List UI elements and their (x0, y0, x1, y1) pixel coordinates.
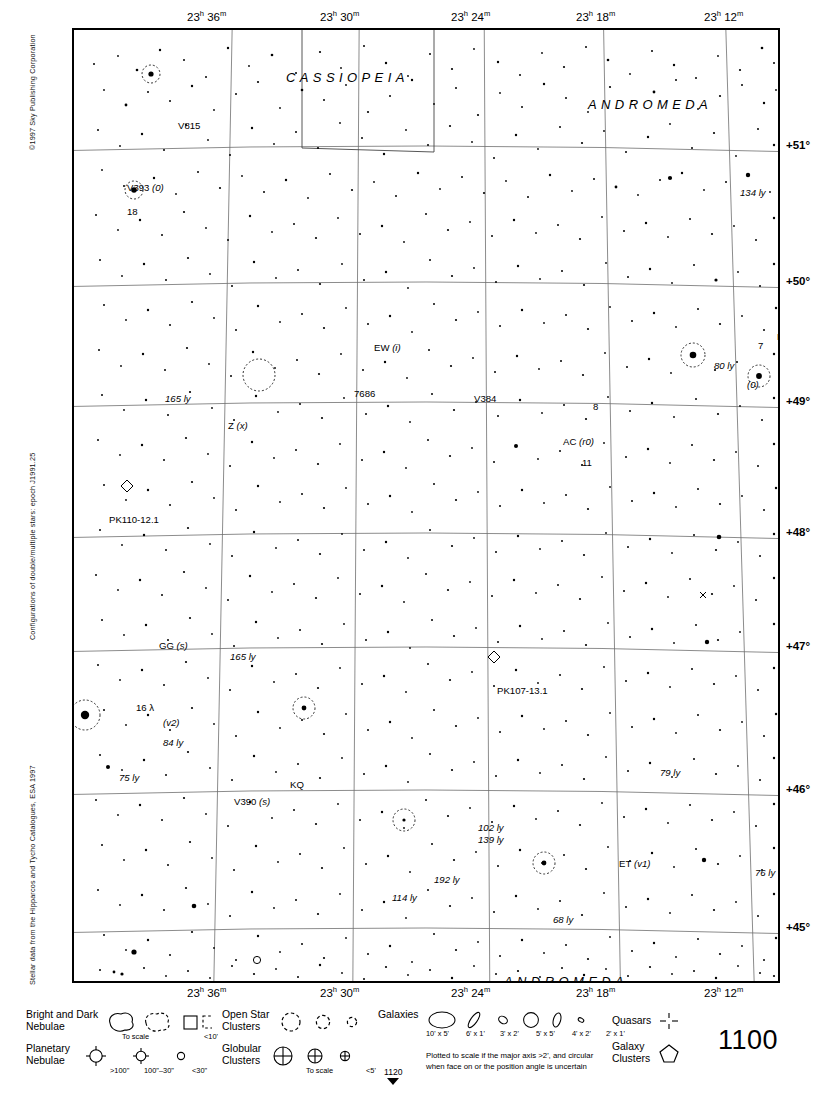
planetary-large-caption: >100" (110, 1066, 129, 1075)
star-label-30: 84 ly (163, 737, 183, 748)
star-label-18: 11 (582, 457, 592, 468)
legend-globular-clusters: Globular Clusters To scale <5' (222, 1043, 361, 1079)
star-label-10: (0) (747, 379, 759, 390)
open-clusters-label-2: Clusters (222, 1021, 269, 1033)
open-cluster-symbols (277, 1009, 369, 1035)
planetary-nebula-symbols (82, 1043, 197, 1069)
planetary-mid-caption: 100"–30" (144, 1066, 174, 1075)
legend-open-clusters: Open Star Clusters (222, 1009, 369, 1035)
star-label-34: V390 (s) (234, 796, 270, 807)
chart-legend: Bright and Dark Nebulae To scale <10' Pl… (0, 995, 814, 1093)
globular-small-caption: <5' (366, 1066, 376, 1075)
star-label-36: 139 ly (478, 834, 504, 845)
nebula-symbols (104, 1009, 212, 1035)
globular-clusters-label-1: Globular (222, 1043, 261, 1055)
ra-gridline-0 (214, 30, 232, 981)
globular-clusters-label-2: Clusters (222, 1055, 261, 1067)
star-label-28: 16 λ (136, 702, 154, 713)
sheet-number: 1100 (718, 1025, 778, 1056)
bright-dark-nebulae-label-2: Nebulae (26, 1021, 98, 1033)
star-label-35: 102 ly (478, 822, 504, 833)
bright-dark-nebulae-label-1: Bright and Dark (26, 1009, 98, 1021)
dec-tick-2: +49° (786, 395, 810, 407)
star-label-39: 192 ly (434, 874, 460, 885)
star-points (81, 45, 777, 980)
dec-gridline-3 (74, 533, 778, 539)
galaxy-size-0: 10' x 5' (426, 1029, 449, 1038)
star-label-38: 76 ly (755, 867, 775, 878)
star-label-33: KQ (290, 779, 304, 790)
star-label-41: 68 ly (553, 914, 573, 925)
star-chart: V815V393 (0)18134 lyEW (i)KY (v)7580 ly1… (72, 28, 780, 983)
galaxy-clusters-label-1: Galaxy (612, 1041, 650, 1053)
galaxy-cluster-symbol (656, 1041, 682, 1067)
planetary-small-caption: <30" (192, 1066, 207, 1075)
ra-tick-top-1: 23h 30m (320, 9, 359, 23)
galaxy-clusters-label-2: Clusters (612, 1053, 650, 1065)
star-label-3: 134 ly (740, 187, 766, 198)
sky-field: V815V393 (0)18134 lyEW (i)KY (v)7580 ly1… (74, 30, 778, 981)
star-label-11: 7686 (354, 388, 375, 399)
quasar-symbol (657, 1011, 681, 1031)
star-label-2: 18 (127, 206, 138, 217)
planetary-nebulae-label-2: Nebulae (26, 1055, 70, 1067)
adjacent-chart-pointer[interactable]: 1120 (384, 1067, 402, 1086)
quasars-label: Quasars (612, 1015, 651, 1027)
star-label-26: 165 ly (230, 651, 256, 662)
star-label-0: V815 (178, 120, 200, 131)
dec-tick-4: +47° (786, 640, 810, 652)
dec-tick-6: +45° (786, 921, 810, 933)
ra-tick-top-4: 23h 12m (704, 9, 743, 23)
legend-planetary-nebulae: Planetary Nebulae >100" (26, 1043, 197, 1079)
star-label-5: KY (v) (777, 331, 778, 342)
star-label-31: 79 ly (660, 767, 680, 778)
dec-gridline-5 (74, 790, 778, 796)
ra-gridline-4 (726, 30, 754, 981)
dec-tick-0: +51° (786, 139, 810, 151)
star-label-13: V384 (474, 393, 496, 404)
stellar-data-credit: Stellar data from the Hipparcos and Tych… (28, 765, 37, 985)
dec-gridline-0 (74, 146, 778, 152)
star-label-25: GG (s) (159, 640, 188, 651)
constellation-name-0: CASSIOPEIA (286, 70, 409, 85)
dec-gridline-6 (74, 928, 778, 934)
star-label-4: EW (i) (374, 342, 401, 353)
galaxy-size-2: 3' x 2' (500, 1029, 519, 1038)
star-label-14: 8 (593, 401, 598, 412)
dec-tick-5: +46° (786, 783, 810, 795)
legend-quasars: Quasars (612, 1011, 681, 1031)
star-label-27: PK107-13.1 (497, 685, 548, 696)
ra-tick-top-0: 23h 36m (187, 9, 226, 23)
legend-galaxies: Galaxies 10' x 5' 6' x 1' 3' x 2' (378, 1009, 593, 1072)
open-clusters-label-1: Open Star (222, 1009, 269, 1021)
galaxies-label: Galaxies (378, 1009, 418, 1021)
star-label-29: (v2) (163, 717, 180, 728)
star-label-37: ET (v1) (619, 858, 650, 869)
deep-sky-symbols (74, 65, 770, 964)
legend-galaxy-clusters: Galaxy Clusters (612, 1041, 682, 1067)
constellation-name-2: ANDROMEDA (504, 974, 628, 981)
ra-tick-top-3: 23h 18m (576, 9, 615, 23)
star-label-32: 75 ly (119, 772, 139, 783)
galaxy-size-1: 6' x 1' (466, 1029, 485, 1038)
dec-tick-3: +48° (786, 526, 810, 538)
ra-gridline-1 (353, 30, 359, 981)
star-label-6: 7 (758, 340, 763, 351)
galaxy-note-1: Plotted to scale if the major axis >2', … (426, 1051, 593, 1062)
globular-to-scale-caption: To scale (306, 1066, 333, 1075)
star-label-8: 80 ly (714, 360, 734, 371)
constellation-boundary (302, 30, 434, 152)
nebula-small-caption: <10' (204, 1032, 218, 1041)
star-label-40: 114 ly (392, 892, 417, 903)
galaxy-symbols (426, 1009, 592, 1031)
galaxy-size-4: 4' x 2' (572, 1029, 591, 1038)
star-label-1: V393 (0) (127, 182, 164, 193)
ra-gridline-3 (604, 30, 621, 981)
copyright-text: ©1997 Sky Publishing Corporation (28, 34, 37, 150)
adjacent-chart-number: 1120 (384, 1067, 402, 1077)
down-arrow-icon (386, 1077, 400, 1086)
nebula-to-scale-caption: To scale (122, 1032, 149, 1041)
star-label-12: 165 ly (165, 393, 191, 404)
star-label-17: AC (r0) (563, 436, 594, 447)
sky-svg (74, 30, 778, 981)
